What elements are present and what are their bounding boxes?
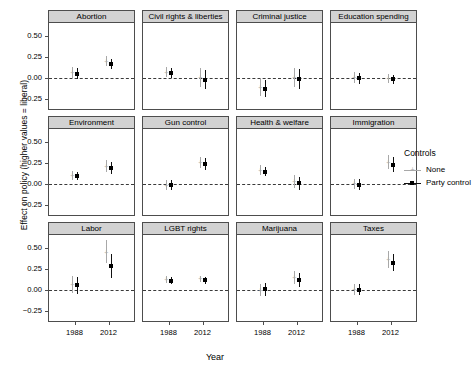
facet-panel: Gun control: [142, 116, 229, 216]
x-tick-label: 1988: [152, 328, 186, 337]
x-tick-label: 1988: [340, 328, 374, 337]
zero-reference-line: [331, 290, 416, 291]
facet-strip-label: LGBT rights: [142, 222, 229, 235]
x-tick-mark: [263, 322, 264, 325]
x-tick-label: 2012: [280, 328, 314, 337]
x-tick-mark: [75, 322, 76, 325]
legend-item-none[interactable]: None: [404, 165, 436, 178]
y-tick-label: 0.00: [12, 73, 42, 82]
point-marker-party: [297, 77, 301, 81]
y-axis-title: Effect on policy (higher values = libera…: [19, 65, 29, 245]
x-axis-title: Year: [0, 352, 430, 362]
zero-reference-line: [143, 184, 228, 185]
y-tick-label: 0.25: [12, 264, 42, 273]
legend-title: Controls: [404, 148, 436, 158]
y-tick-label: 0.00: [12, 285, 42, 294]
x-tick-mark: [357, 322, 358, 325]
point-marker-party: [203, 278, 207, 282]
x-tick-label: 1988: [58, 328, 92, 337]
y-tick-label: 0.25: [12, 52, 42, 61]
point-marker-none: [104, 250, 109, 255]
point-marker-party: [357, 76, 361, 80]
x-tick-label: 1988: [246, 328, 280, 337]
point-marker-party: [357, 288, 361, 292]
point-marker-party: [109, 62, 113, 66]
x-tick-label: 2012: [374, 328, 408, 337]
facet-panel: Marijuana: [236, 222, 323, 322]
x-tick-mark: [297, 322, 298, 325]
y-tick-label: −0.25: [12, 306, 42, 315]
facet-strip-label: Labor: [48, 222, 135, 235]
x-tick-mark: [109, 322, 110, 325]
y-tick-label: −0.25: [12, 94, 42, 103]
y-tick-label: 0.00: [12, 179, 42, 188]
y-tick-label: 0.25: [12, 158, 42, 167]
facet-strip-label: Health & welfare: [236, 116, 323, 129]
plot-area: [48, 129, 135, 216]
x-tick-mark: [391, 322, 392, 325]
zero-reference-line: [49, 78, 134, 79]
point-marker-party: [75, 283, 79, 287]
facet-panel: Criminal justice: [236, 10, 323, 110]
x-tick-label: 2012: [92, 328, 126, 337]
point-marker-party: [297, 278, 301, 282]
facet-panel: LGBT rights: [142, 222, 229, 322]
facet-strip-label: Environment: [48, 116, 135, 129]
zero-reference-line: [49, 184, 134, 185]
plot-area: [236, 23, 323, 110]
x-tick-mark: [169, 322, 170, 325]
plot-area: [330, 235, 417, 322]
point-marker-party: [263, 170, 267, 174]
point-marker-party: [391, 163, 395, 167]
facet-panel: Taxes: [330, 222, 417, 322]
facet-strip-label: Gun control: [142, 116, 229, 129]
square-marker-icon: [410, 181, 414, 185]
facet-strip-label: Immigration: [330, 116, 417, 129]
facet-panel: Health & welfare: [236, 116, 323, 216]
zero-reference-line: [331, 78, 416, 79]
point-marker-party: [357, 183, 361, 187]
y-tick-label: −0.25: [12, 200, 42, 209]
point-marker-party: [263, 87, 267, 91]
y-tick-label: 0.50: [12, 243, 42, 252]
y-tick-label: 0.50: [12, 137, 42, 146]
facet-panel: Education spending: [330, 10, 417, 110]
point-marker-party: [75, 174, 79, 178]
zero-reference-line: [237, 290, 322, 291]
plot-area: [330, 23, 417, 110]
plus-marker-icon: [410, 167, 415, 172]
point-marker-party: [263, 287, 267, 291]
plot-area: [48, 235, 135, 322]
facet-strip-label: Education spending: [330, 10, 417, 23]
legend: Controls None Party control: [404, 148, 436, 191]
x-tick-mark: [203, 322, 204, 325]
legend-label-party-control: Party control: [426, 178, 471, 187]
facet-panel: Environment: [48, 116, 135, 216]
point-marker-party: [203, 162, 207, 166]
zero-reference-line: [143, 290, 228, 291]
x-tick-label: 2012: [186, 328, 220, 337]
legend-item-party-control[interactable]: Party control: [404, 178, 436, 191]
zero-reference-line: [237, 78, 322, 79]
point-marker-party: [75, 72, 79, 76]
facet-panel: Labor: [48, 222, 135, 322]
zero-reference-line: [237, 184, 322, 185]
facet-panel: Civil rights & liberties: [142, 10, 229, 110]
point-marker-party: [203, 78, 207, 82]
plot-area: [142, 129, 229, 216]
point-marker-party: [109, 264, 113, 268]
legend-label-none: None: [426, 165, 445, 174]
zero-reference-line: [143, 78, 228, 79]
point-marker-party: [169, 71, 173, 75]
facet-strip-label: Abortion: [48, 10, 135, 23]
facet-strip-label: Civil rights & liberties: [142, 10, 229, 23]
point-marker-party: [297, 181, 301, 185]
chart-root: Effect on policy (higher values = libera…: [0, 0, 475, 375]
plot-area: [142, 235, 229, 322]
plot-area: [48, 23, 135, 110]
facet-strip-label: Criminal justice: [236, 10, 323, 23]
plot-area: [236, 235, 323, 322]
point-marker-party: [169, 279, 173, 283]
plot-area: [142, 23, 229, 110]
facet-strip-label: Marijuana: [236, 222, 323, 235]
